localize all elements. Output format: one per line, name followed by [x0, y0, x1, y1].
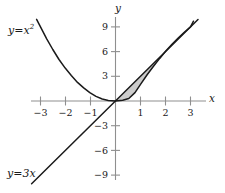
x-tick-label: −1 — [82, 108, 99, 118]
x-axis-name: x — [209, 93, 215, 104]
y-tick-label: 9 — [97, 22, 108, 32]
x-tick-label: 3 — [185, 108, 196, 118]
x-tick-label: −3 — [32, 108, 49, 118]
y-tick-label: −9 — [91, 170, 108, 180]
curve-label-parabola-exponent: 2 — [30, 23, 34, 31]
y-tick-label: 3 — [97, 71, 108, 81]
curve-label-line-rhs: 3x — [22, 167, 35, 180]
curve-label-parabola: y=x2 — [8, 24, 34, 36]
y-axis-name: y — [115, 3, 121, 14]
x-tick-label: −2 — [57, 108, 74, 118]
x-tick-label: 1 — [135, 108, 146, 118]
curve-label-line: y=3x — [7, 168, 36, 179]
x-tick-label: 2 — [160, 108, 171, 118]
figure-canvas: y=x2 y=3x y x −3 −2 −1 1 2 3 9 6 3 −3 −6… — [0, 0, 225, 193]
y-tick-label: 6 — [97, 47, 108, 57]
y-tick-label: −3 — [91, 121, 108, 131]
y-tick-label: −6 — [91, 146, 108, 156]
curve-line — [32, 20, 198, 184]
